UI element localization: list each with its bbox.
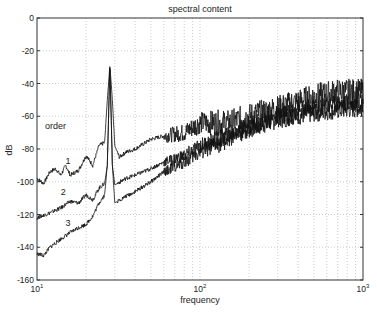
svg-text:0: 0 [29, 13, 34, 23]
spectral-chart: spectral content 0-20-40-60-80-100-120-1… [0, 0, 377, 314]
y-axis-ticks: 0-20-40-60-80-100-120-140-160 [17, 13, 363, 285]
svg-text:-40: -40 [22, 79, 35, 89]
svg-text:102: 102 [194, 283, 207, 294]
svg-text:-60: -60 [22, 111, 35, 121]
svg-text:103: 103 [357, 283, 370, 294]
x-axis-label: frequency [180, 295, 220, 305]
x-axis-ticks: 101102103 [31, 283, 370, 294]
chart-title: spectral content [168, 4, 232, 14]
svg-text:order: order [45, 121, 66, 131]
svg-text:-20: -20 [22, 46, 35, 56]
svg-text:-140: -140 [17, 242, 34, 252]
svg-text:101: 101 [31, 283, 44, 294]
svg-text:-80: -80 [22, 144, 35, 154]
svg-text:2: 2 [61, 187, 66, 197]
svg-text:1: 1 [66, 156, 71, 166]
svg-text:3: 3 [66, 218, 71, 228]
svg-text:-100: -100 [17, 177, 34, 187]
svg-text:-120: -120 [17, 210, 34, 220]
y-axis-label: dB [4, 144, 14, 155]
